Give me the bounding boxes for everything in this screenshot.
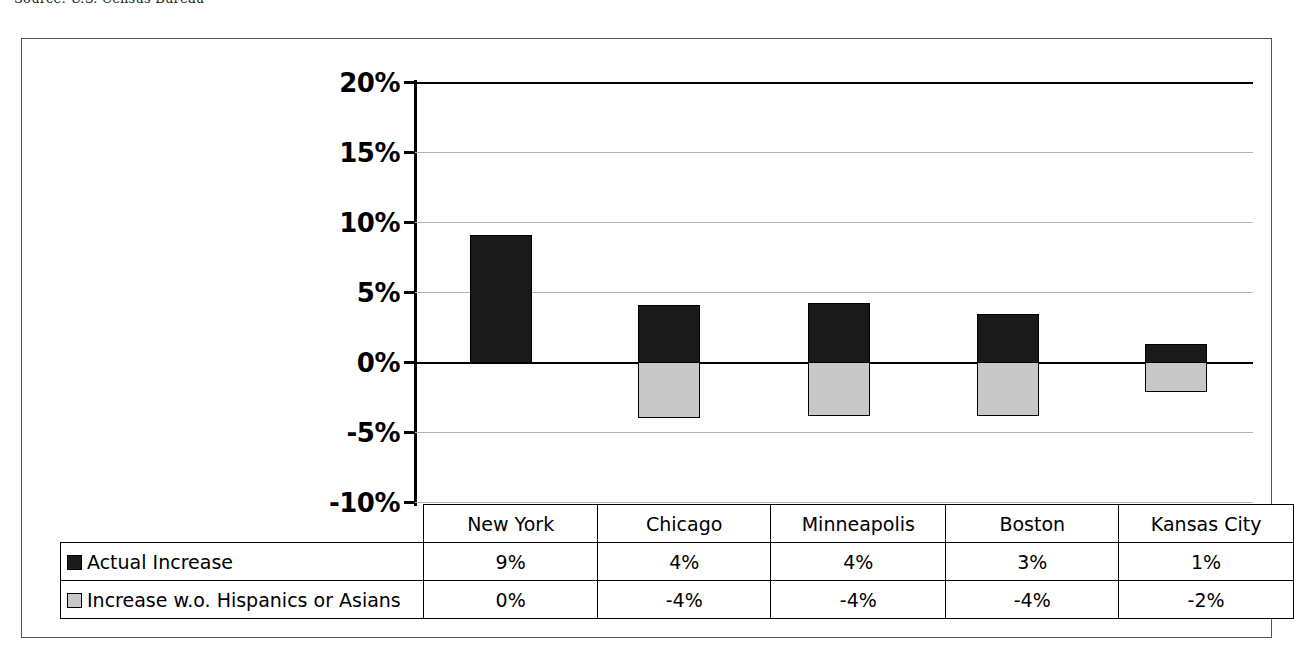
table-row: Actual Increase 9% 4% 4% 3% 1%: [61, 543, 1294, 581]
bar-excl-minneapolis: [808, 362, 870, 416]
table-cell: 0%: [424, 581, 598, 619]
gridline-15: [415, 152, 1253, 153]
table-corner-cell: [61, 505, 424, 543]
gridline-neg5: [415, 432, 1253, 433]
gridline-5: [415, 292, 1253, 293]
legend-label: Actual Increase: [87, 551, 233, 573]
table-row-categories: New York Chicago Minneapolis Boston Kans…: [61, 505, 1294, 543]
bar-actual-minneapolis: [808, 303, 870, 363]
legend-swatch-icon: [67, 593, 82, 608]
bar-excl-boston: [977, 362, 1039, 416]
bar-actual-new-york: [470, 235, 532, 363]
table-cell: -2%: [1119, 581, 1294, 619]
table-cell: -4%: [771, 581, 946, 619]
data-table: New York Chicago Minneapolis Boston Kans…: [60, 504, 1294, 619]
y-tick-label: 15%: [0, 138, 400, 168]
table-row: Increase w.o. Hispanics or Asians 0% -4%…: [61, 581, 1294, 619]
legend-label: Increase w.o. Hispanics or Asians: [87, 589, 401, 611]
legend-item-increase-without-hispanics-or-asians: Increase w.o. Hispanics or Asians: [61, 581, 424, 619]
column-header-minneapolis: Minneapolis: [771, 505, 946, 543]
bar-actual-chicago: [638, 305, 700, 363]
column-header-new-york: New York: [424, 505, 598, 543]
plot-area: [415, 82, 1253, 504]
gridline-20: [415, 82, 1253, 84]
column-header-chicago: Chicago: [598, 505, 771, 543]
legend-swatch-icon: [67, 555, 82, 570]
table-cell: 4%: [771, 543, 946, 581]
table-cell: -4%: [946, 581, 1119, 619]
table-cell: 3%: [946, 543, 1119, 581]
gridline-neg10: [415, 502, 1253, 503]
gridline-10: [415, 222, 1253, 223]
bar-actual-boston: [977, 314, 1039, 363]
column-header-kansas-city: Kansas City: [1119, 505, 1294, 543]
table-cell: 4%: [598, 543, 771, 581]
bar-excl-chicago: [638, 362, 700, 418]
legend-item-actual-increase: Actual Increase: [61, 543, 424, 581]
table-cell: -4%: [598, 581, 771, 619]
bar-excl-kansas-city: [1145, 362, 1207, 392]
bar-actual-kansas-city: [1145, 344, 1207, 363]
y-tick-label: 0%: [0, 348, 400, 378]
y-tick-label: -5%: [0, 418, 400, 448]
table-cell: 1%: [1119, 543, 1294, 581]
table-cell: 9%: [424, 543, 598, 581]
y-tick-label: 20%: [0, 68, 400, 98]
column-header-boston: Boston: [946, 505, 1119, 543]
y-tick-label: 5%: [0, 278, 400, 308]
y-tick-label: 10%: [0, 208, 400, 238]
